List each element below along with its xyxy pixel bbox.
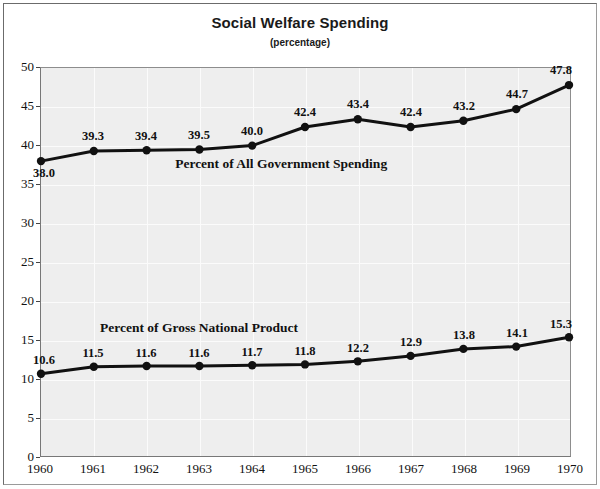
data-point-marker [195, 362, 203, 370]
data-point-marker [512, 105, 520, 113]
data-point-label: 11.6 [123, 347, 169, 360]
x-axis-tick-label: 1968 [434, 462, 494, 475]
y-axis-tick-label: 25 [0, 255, 34, 268]
data-point-marker [142, 362, 150, 370]
y-axis-tick-label: 15 [0, 333, 34, 346]
data-point-label: 38.0 [21, 167, 67, 180]
y-axis-tick-label: 10 [0, 372, 34, 385]
y-axis-tick-label: 45 [0, 99, 34, 112]
data-point-label: 11.8 [282, 345, 328, 358]
data-point-marker [90, 147, 98, 155]
data-point-label: 44.7 [494, 88, 540, 101]
data-point-marker [406, 123, 414, 131]
chart-figure: Social Welfare Spending (percentage) 051… [0, 0, 600, 489]
data-point-marker [354, 115, 362, 123]
data-point-marker [354, 357, 362, 365]
x-axis-tick-label: 1969 [487, 462, 547, 475]
data-point-label: 11.7 [229, 346, 275, 359]
data-point-marker [565, 81, 573, 89]
x-axis-tick-label: 1970 [540, 462, 600, 475]
data-point-marker [37, 157, 45, 165]
data-point-label: 40.0 [229, 125, 275, 138]
x-axis-tick-label: 1962 [116, 462, 176, 475]
data-point-label: 39.4 [123, 130, 169, 143]
data-point-label: 12.9 [388, 336, 434, 349]
data-point-marker [195, 145, 203, 153]
data-point-marker [248, 361, 256, 369]
x-axis-tick-label: 1967 [381, 462, 441, 475]
chart-title: Social Welfare Spending [0, 14, 600, 31]
y-axis-tick-label: 30 [0, 216, 34, 229]
x-axis-tick-label: 1965 [275, 462, 335, 475]
data-point-marker [406, 352, 414, 360]
data-point-label: 42.4 [282, 106, 328, 119]
data-point-marker [565, 333, 573, 341]
data-point-marker [301, 123, 309, 131]
data-point-label: 11.5 [70, 347, 116, 360]
data-point-marker [512, 342, 520, 350]
data-point-label: 12.2 [335, 342, 381, 355]
x-axis-tick-label: 1964 [222, 462, 282, 475]
data-point-label: 39.3 [70, 130, 116, 143]
y-axis-tick-mark [36, 457, 40, 458]
y-axis-tick-label: 5 [0, 411, 34, 424]
data-point-label: 43.4 [335, 98, 381, 111]
series-lines [41, 68, 570, 456]
y-axis-tick-label: 40 [0, 138, 34, 151]
series-annotation-label: Percent of All Government Spending [175, 156, 387, 172]
y-axis-tick-label: 50 [0, 60, 34, 73]
data-point-marker [248, 141, 256, 149]
x-axis-tick-label: 1963 [169, 462, 229, 475]
data-point-label: 47.8 [538, 64, 584, 77]
data-point-label: 42.4 [388, 106, 434, 119]
data-point-label: 14.1 [494, 327, 540, 340]
x-axis-tick-label: 1960 [10, 462, 70, 475]
data-point-marker [142, 146, 150, 154]
data-point-marker [90, 363, 98, 371]
data-point-label: 15.3 [538, 318, 584, 331]
data-point-label: 10.6 [21, 354, 67, 367]
y-axis-tick-label: 20 [0, 294, 34, 307]
chart-subtitle: (percentage) [0, 37, 600, 48]
series-annotation-label: Percent of Gross National Product [100, 320, 298, 336]
x-axis-tick-label: 1961 [63, 462, 123, 475]
x-axis-tick-label: 1966 [328, 462, 388, 475]
data-point-label: 43.2 [441, 100, 487, 113]
data-point-label: 11.6 [176, 347, 222, 360]
data-point-marker [459, 117, 467, 125]
data-point-marker [37, 370, 45, 378]
plot-area [40, 67, 571, 457]
data-point-marker [459, 345, 467, 353]
data-point-label: 39.5 [176, 129, 222, 142]
data-point-marker [301, 360, 309, 368]
data-point-label: 13.8 [441, 329, 487, 342]
